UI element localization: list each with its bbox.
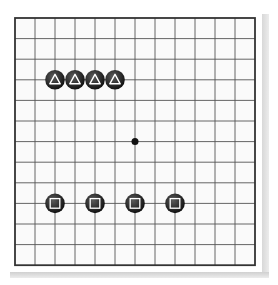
stone-black-triangle[interactable]: [65, 70, 85, 90]
stone-black-triangle[interactable]: [45, 70, 65, 90]
stone-black-square[interactable]: [165, 194, 185, 214]
black-stone: [125, 194, 145, 214]
stone-black-square[interactable]: [45, 194, 65, 214]
black-stone: [105, 70, 125, 90]
black-stone: [65, 70, 85, 90]
stone-black-square[interactable]: [85, 194, 105, 214]
stone-black-triangle[interactable]: [85, 70, 105, 90]
star-points: [132, 138, 139, 145]
black-stone: [45, 194, 65, 214]
stone-black-triangle[interactable]: [105, 70, 125, 90]
star-point: [132, 138, 139, 145]
black-stone: [165, 194, 185, 214]
black-stone: [85, 194, 105, 214]
black-stone: [45, 70, 65, 90]
black-stone: [85, 70, 105, 90]
go-board[interactable]: [0, 0, 278, 285]
stone-black-square[interactable]: [125, 194, 145, 214]
